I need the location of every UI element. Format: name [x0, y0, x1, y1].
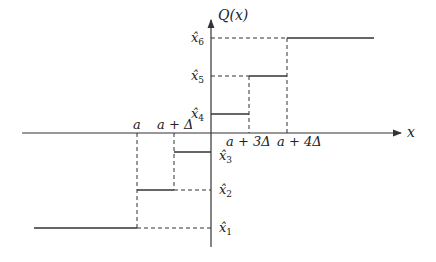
x-tick-a-plus-delta: a + Δ: [157, 117, 193, 132]
x-tick-a: a: [133, 117, 141, 132]
level-label-6: x̂6: [191, 30, 204, 47]
diagram-canvas: Q(x) x a a + Δ a + 3Δ a + 4Δ x̂6 x̂5 x̂4…: [0, 0, 436, 262]
x-tick-a-plus-3delta: a + 3Δ: [226, 134, 271, 149]
x-axis-label: x: [407, 124, 415, 140]
quantizer-diagram: Q(x) x a a + Δ a + 3Δ a + 4Δ x̂6 x̂5 x̂4…: [0, 0, 436, 262]
y-axis-label: Q(x): [218, 7, 248, 23]
level-label-1: x̂1: [219, 220, 232, 237]
level-label-3: x̂3: [219, 148, 232, 165]
level-label-4: x̂4: [191, 106, 204, 123]
level-label-5: x̂5: [191, 68, 204, 85]
level-label-2: x̂2: [219, 182, 232, 199]
x-tick-a-plus-4delta: a + 4Δ: [277, 134, 322, 149]
